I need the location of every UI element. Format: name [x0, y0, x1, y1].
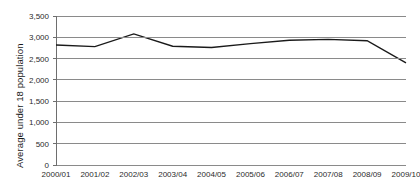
gridline-y-1000 — [56, 122, 406, 123]
y-axis-title-container: Average under 18 population — [0, 0, 18, 170]
x-tick-label: 2000/01 — [42, 170, 71, 179]
y-tick-mark — [53, 58, 57, 59]
y-tick-label: 2,500 — [29, 54, 49, 63]
plot-area — [56, 16, 406, 165]
y-tick-label: 3,000 — [29, 33, 49, 42]
y-tick-mark — [53, 101, 57, 102]
y-tick-mark — [53, 165, 57, 166]
x-tick-label: 2007/08 — [314, 170, 343, 179]
gridline-y-1500 — [56, 101, 406, 102]
gridline-y-3500 — [56, 16, 406, 17]
y-tick-label: 1,000 — [29, 118, 49, 127]
x-tick-label: 2002/03 — [119, 170, 148, 179]
gridline-y-0 — [56, 165, 406, 166]
x-tick-label: 2006/07 — [275, 170, 304, 179]
y-tick-mark — [53, 37, 57, 38]
gridline-y-2500 — [56, 58, 406, 59]
y-tick-label: 2,000 — [29, 75, 49, 84]
gridline-y-2000 — [56, 79, 406, 80]
x-tick-label: 2008/09 — [353, 170, 382, 179]
y-tick-label: 500 — [36, 139, 49, 148]
y-tick-label: 0 — [45, 161, 49, 170]
x-tick-label: 2004/05 — [197, 170, 226, 179]
x-axis-tick-labels: 2000/012001/022002/032003/042004/052005/… — [56, 170, 406, 190]
x-tick-label: 2001/02 — [80, 170, 109, 179]
y-tick-mark — [53, 79, 57, 80]
y-axis-tick-labels: 05001,0001,5002,0002,5003,0003,500 — [18, 0, 52, 193]
y-tick-mark — [53, 143, 57, 144]
y-tick-label: 3,500 — [29, 12, 49, 21]
x-tick-label: 2003/04 — [158, 170, 187, 179]
x-tick-label: 2005/06 — [236, 170, 265, 179]
gridline-y-3000 — [56, 37, 406, 38]
y-tick-label: 1,500 — [29, 97, 49, 106]
y-tick-mark — [53, 16, 57, 17]
x-tick-label: 2009/10 — [392, 170, 420, 179]
gridline-y-500 — [56, 143, 406, 144]
y-tick-mark — [53, 122, 57, 123]
